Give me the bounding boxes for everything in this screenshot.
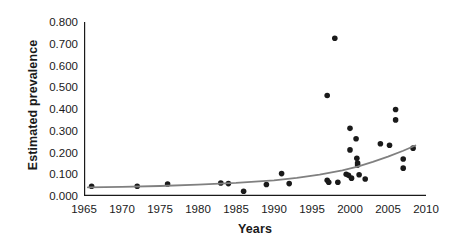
data-point <box>400 165 406 171</box>
data-point <box>335 180 341 186</box>
data-point <box>324 93 330 99</box>
data-point <box>326 180 332 186</box>
plot-area <box>84 22 426 196</box>
data-point <box>332 36 338 42</box>
data-point <box>356 172 362 178</box>
data-point <box>393 117 399 123</box>
scatter-plot-canvas <box>84 22 426 196</box>
data-point <box>349 175 355 181</box>
data-point <box>264 182 270 188</box>
data-point <box>353 136 359 142</box>
x-axis-tick-label: 2010 <box>403 203 449 215</box>
y-axis-tick-label: 0.300 <box>32 125 78 137</box>
y-axis-tick-label: 0.400 <box>32 103 78 115</box>
y-axis-tick-label: 0.700 <box>32 38 78 50</box>
y-axis-tick-label: 0.800 <box>32 16 78 28</box>
data-point <box>378 141 384 147</box>
data-point <box>286 181 292 187</box>
y-axis-tick-label: 0.600 <box>32 60 78 72</box>
data-point <box>362 176 368 182</box>
data-point <box>400 156 406 162</box>
data-point <box>393 107 399 113</box>
y-axis-tick-label: 0.200 <box>32 147 78 159</box>
data-point <box>241 188 247 194</box>
x-axis-title: Years <box>84 222 426 236</box>
data-point <box>387 143 393 149</box>
y-axis-tick-label: 0.000 <box>32 190 78 202</box>
y-axis-tick-label: 0.500 <box>32 81 78 93</box>
data-point <box>279 171 285 177</box>
data-point <box>347 126 353 132</box>
data-point <box>347 147 353 153</box>
chart-figure: Estimated prevalence Years 0.0000.1000.2… <box>0 0 454 247</box>
y-axis-tick-label: 0.100 <box>32 168 78 180</box>
